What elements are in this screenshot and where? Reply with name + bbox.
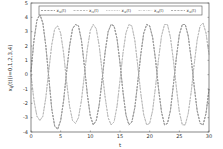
y-tick-label: 4 [25,14,28,20]
y-tick-label: -4 [23,129,28,135]
y-tick-label: -3 [23,114,28,120]
y-tick-label: 5 [25,0,28,6]
y-tick-label: 1 [25,57,28,63]
y-tick-label: -1 [23,86,28,92]
x-tick-label: 15 [117,133,123,139]
x-tick-label: 25 [176,133,182,139]
legend: xi0(t)xi1(t)xi2(t)xi3(t)xi4(t) [39,6,202,15]
y-tick-label: -2 [23,100,28,106]
x-tick-label: 20 [146,133,152,139]
chart: 051015202530 -4-3-2-1012345 t xij(t)(i=0… [0,0,223,149]
x-tick-label: 5 [59,133,62,139]
y-tick-label: 0 [25,71,28,77]
x-tick-label: 30 [206,133,212,139]
x-tick-label: 0 [29,133,32,139]
x-tick-label: 10 [87,133,93,139]
y-tick-label: 2 [25,43,28,49]
y-tick-label: 3 [25,28,28,34]
chart-background [0,0,223,149]
